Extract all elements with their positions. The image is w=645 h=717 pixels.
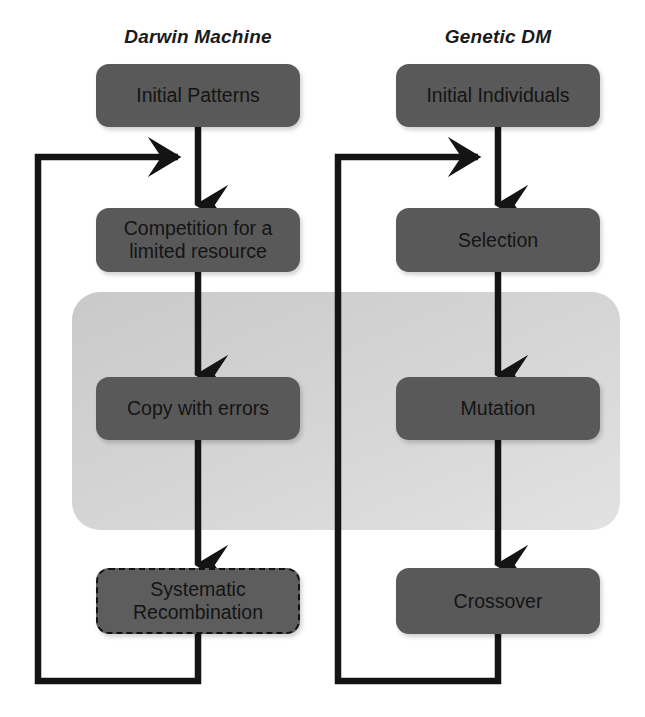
flowchart-diagram: Darwin Machine Genetic DM Initial Patter… xyxy=(0,0,645,717)
node-label: Competition for a limited resource xyxy=(124,217,273,263)
column-header-darwin-machine: Darwin Machine xyxy=(96,26,300,48)
node-crossover[interactable]: Crossover xyxy=(396,568,600,634)
node-label: Selection xyxy=(458,229,538,252)
node-selection[interactable]: Selection xyxy=(396,208,600,272)
node-label: Mutation xyxy=(461,397,536,420)
column-header-genetic-dm: Genetic DM xyxy=(396,26,600,48)
node-initial-individuals[interactable]: Initial Individuals xyxy=(396,64,600,127)
node-copy-with-errors[interactable]: Copy with errors xyxy=(96,377,300,440)
node-initial-patterns[interactable]: Initial Patterns xyxy=(96,64,300,127)
node-label: Initial Individuals xyxy=(426,84,569,107)
node-label: Systematic Recombination xyxy=(133,578,263,624)
node-label: Initial Patterns xyxy=(136,84,260,107)
node-label: Copy with errors xyxy=(127,397,269,420)
node-systematic-recombination[interactable]: Systematic Recombination xyxy=(96,568,300,634)
node-mutation[interactable]: Mutation xyxy=(396,377,600,440)
node-label: Crossover xyxy=(454,590,543,613)
node-competition-for-a-limited-resource[interactable]: Competition for a limited resource xyxy=(96,208,300,272)
